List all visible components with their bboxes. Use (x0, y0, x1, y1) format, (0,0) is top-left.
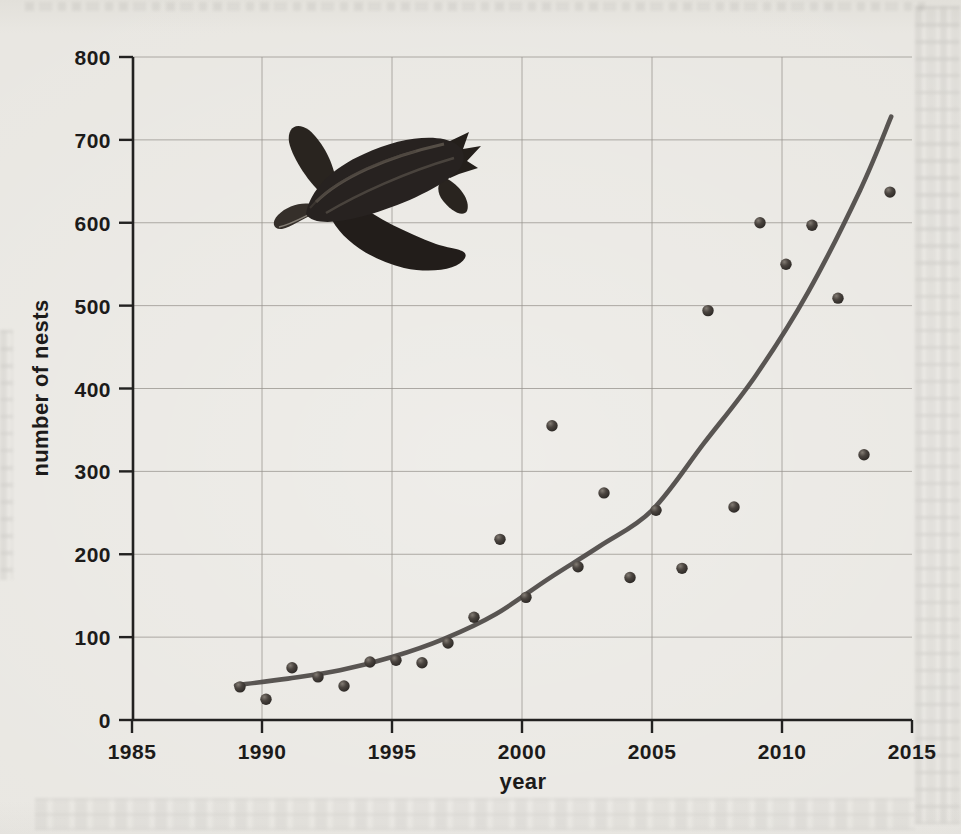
data-point-2003 (598, 487, 609, 498)
data-point-2002 (572, 561, 583, 572)
y-axis-title: number of nests (28, 299, 53, 476)
y-tick-label-0: 0 (99, 709, 111, 732)
x-tick-label-2010: 2010 (758, 740, 807, 763)
data-point-2010 (780, 258, 791, 269)
data-point-2014 (884, 186, 895, 197)
data-point-2012 (832, 292, 843, 303)
turtle-body-group (274, 126, 481, 271)
data-point-1999 (494, 534, 505, 545)
y-tick-label-100: 100 (74, 626, 111, 649)
x-tick-label-1995: 1995 (368, 740, 417, 763)
y-tick-label-700: 700 (74, 129, 111, 152)
turtle-rear-flipper (438, 178, 468, 214)
y-tick-label-500: 500 (74, 295, 111, 318)
data-point-1995 (390, 655, 401, 666)
data-point-1991 (286, 662, 297, 673)
leatherback-turtle-illustration (266, 116, 482, 298)
data-point-1998 (468, 612, 479, 623)
x-axis-title: year (500, 769, 547, 794)
data-point-2007 (702, 305, 713, 316)
x-tick-label-2005: 2005 (628, 740, 677, 763)
data-point-2001 (546, 420, 557, 431)
data-point-1997 (442, 637, 453, 648)
x-tick-label-1990: 1990 (238, 740, 287, 763)
data-point-2005 (650, 505, 661, 516)
data-point-2008 (728, 501, 739, 512)
x-tick-label-1985: 1985 (108, 740, 157, 763)
data-point-2000 (520, 592, 531, 603)
data-point-1993 (338, 680, 349, 691)
turtle-carapace (306, 138, 464, 222)
y-tick-label-800: 800 (74, 46, 111, 69)
x-tick-label-2015: 2015 (888, 740, 937, 763)
data-point-2004 (624, 572, 635, 583)
data-point-2009 (754, 217, 765, 228)
data-point-2006 (676, 563, 687, 574)
data-point-1989 (234, 681, 245, 692)
y-tick-label-400: 400 (74, 378, 111, 401)
data-point-1990 (260, 694, 271, 705)
x-tick-label-2000: 2000 (498, 740, 547, 763)
data-point-1996 (416, 657, 427, 668)
scanned-page: 0100200300400500600700800198519901995200… (0, 0, 961, 834)
data-point-1992 (312, 671, 323, 682)
y-tick-label-600: 600 (74, 212, 111, 235)
data-point-1994 (364, 656, 375, 667)
data-point-2011 (806, 220, 817, 231)
y-tick-label-200: 200 (74, 543, 111, 566)
data-point-2013 (858, 449, 869, 460)
y-tick-label-300: 300 (74, 460, 111, 483)
